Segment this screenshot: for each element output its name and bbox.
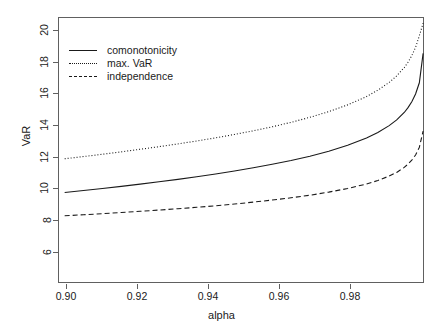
ytick-label: 20 — [0, 24, 50, 36]
ytick-label: 10 — [0, 182, 50, 194]
series-line — [65, 131, 423, 216]
ytick-label: 16 — [0, 87, 50, 99]
xtick-label: 0.98 — [320, 290, 380, 302]
legend-key-dotted-line — [69, 63, 97, 64]
ytick-label: 8 — [0, 214, 50, 226]
ytick-label: 6 — [0, 246, 50, 258]
xtick-mark — [137, 284, 138, 289]
xtick-label: 0.92 — [107, 290, 167, 302]
xtick-label: 0.90 — [36, 290, 96, 302]
chart-figure: 20 18 16 14 12 10 8 6 0.90 0.92 0.94 0.9… — [0, 0, 443, 333]
xtick-label: 0.94 — [178, 290, 238, 302]
x-axis-title: alpha — [0, 309, 443, 321]
legend-label: comonotonicity — [107, 44, 177, 57]
legend-item: independence — [69, 70, 219, 83]
chart-legend: comonotonicity max. VaR independence — [69, 44, 219, 83]
xtick-mark — [350, 284, 351, 289]
y-axis-title: VaR — [20, 106, 32, 166]
legend-key-solid-line — [69, 50, 97, 51]
legend-label: max. VaR — [107, 57, 152, 70]
ytick-label: 18 — [0, 56, 50, 68]
xtick-mark — [279, 284, 280, 289]
xtick-mark — [66, 284, 67, 289]
legend-label: independence — [107, 70, 173, 83]
xtick-label: 0.96 — [249, 290, 309, 302]
legend-item: max. VaR — [69, 57, 219, 70]
legend-item: comonotonicity — [69, 44, 219, 57]
xtick-mark — [208, 284, 209, 289]
plot-area: comonotonicity max. VaR independence — [58, 17, 424, 283]
legend-key-dashed-line — [69, 76, 97, 77]
